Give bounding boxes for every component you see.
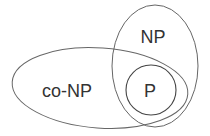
p-label: P: [144, 81, 156, 101]
np-label: NP: [140, 27, 165, 47]
co-np-ellipse: [9, 42, 190, 134]
co-np-label: co-NP: [42, 81, 92, 101]
complexity-venn-diagram: co-NP NP P: [0, 0, 210, 136]
np-ellipse: [112, 5, 198, 127]
